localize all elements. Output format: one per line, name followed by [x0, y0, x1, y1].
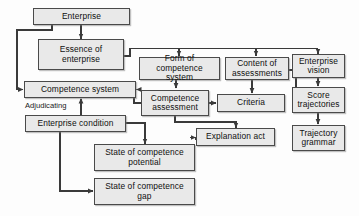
node-competence-assessment-label: Competence assessment [151, 94, 200, 113]
node-competence-assessment[interactable]: Competence assessment [141, 90, 209, 116]
node-enterprise-vision-label: Enterprise vision [299, 57, 338, 76]
node-content-of-assessments[interactable]: Content of assessments [225, 57, 289, 80]
node-content-of-assessments-label: Content of assessments [232, 59, 282, 78]
node-enterprise-condition[interactable]: Enterprise condition [25, 115, 126, 132]
node-form-of-competence-system-label: Form of competence system [142, 54, 217, 82]
diagram-canvas: Enterprise Essence of enterprise Compete… [0, 0, 359, 216]
node-enterprise-vision[interactable]: Enterprise vision [292, 54, 345, 78]
node-state-of-competence-potential[interactable]: State of competence potential [94, 144, 195, 171]
node-essence-of-enterprise[interactable]: Essence of enterprise [38, 39, 124, 70]
node-explanation-act-label: Explanation act [206, 132, 265, 141]
node-score-trajectories-label: Score trajectories [297, 91, 339, 110]
node-enterprise-condition-label: Enterprise condition [37, 119, 113, 128]
node-trajectory-grammar[interactable]: Trajectory grammar [292, 125, 345, 151]
node-trajectory-grammar-label: Trajectory grammar [300, 129, 338, 148]
edge-enterprise-condition-to-state-potential [126, 123, 146, 144]
edge-enterprise-condition-to-state-gap [60, 132, 93, 192]
node-state-of-competence-gap-label: State of competence gap [105, 182, 184, 201]
node-competence-system[interactable]: Competence system [24, 81, 136, 98]
node-form-of-competence-system[interactable]: Form of competence system [139, 57, 220, 80]
node-essence-of-enterprise-label: Essence of enterprise [60, 45, 102, 64]
node-score-trajectories[interactable]: Score trajectories [292, 87, 345, 113]
edge-label-adjudicating: Adjudicating [25, 101, 66, 110]
edge-competence-assessment-to-explanation-act [175, 116, 236, 128]
node-enterprise[interactable]: Enterprise [33, 8, 130, 25]
node-criteria-label: Criteria [237, 98, 265, 107]
node-explanation-act[interactable]: Explanation act [196, 128, 275, 146]
node-competence-system-label: Competence system [41, 85, 119, 94]
node-state-of-competence-gap[interactable]: State of competence gap [94, 178, 195, 205]
node-enterprise-label: Enterprise [62, 12, 101, 21]
node-criteria[interactable]: Criteria [217, 94, 285, 112]
node-state-of-competence-potential-label: State of competence potential [105, 148, 184, 167]
